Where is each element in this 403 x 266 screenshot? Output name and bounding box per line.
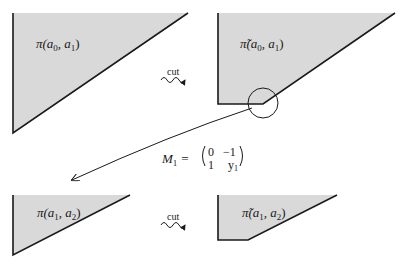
svg-text:0: 0	[208, 145, 214, 159]
panel-top-left: π(a0, a1)	[13, 13, 188, 133]
region-fill	[218, 13, 395, 104]
svg-text:1: 1	[208, 158, 214, 172]
cut-arrow-bottom: cut	[161, 211, 185, 228]
panel-top-right: π̃(a0, a1)	[218, 13, 395, 118]
left-paren	[203, 146, 206, 166]
squiggle-arrow-icon	[161, 78, 185, 83]
panel-bottom-left: π(a1, a2)	[13, 195, 130, 255]
matrix-label: M1= 0 −1 1 y1	[161, 145, 243, 173]
squiggle-arrow-icon	[161, 223, 185, 228]
svg-text:M1=: M1=	[161, 151, 189, 168]
svg-text:−1: −1	[223, 145, 236, 159]
mapping-arrow	[72, 108, 252, 180]
diagram-canvas: π(a0, a1) cut π̃(a0, a1) M1= 0 −1 1 y1 π…	[0, 0, 403, 266]
cut-label: cut	[167, 66, 179, 77]
cut-label: cut	[167, 211, 179, 222]
cut-arrow-top: cut	[161, 66, 185, 83]
svg-text:y1: y1	[228, 158, 238, 173]
right-paren	[240, 146, 243, 166]
panel-bottom-right: π̃(a1, a2)	[218, 195, 337, 240]
